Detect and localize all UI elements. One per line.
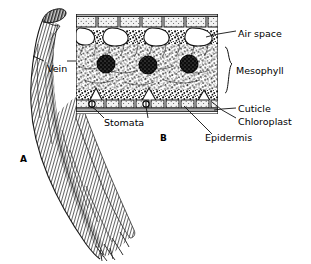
label-vein: Vein xyxy=(47,64,67,74)
leaf-structure-figure xyxy=(0,0,311,264)
mesophyll-brace xyxy=(225,47,232,93)
panel-label-a: A xyxy=(20,155,27,164)
label-mesophyll: Mesophyll xyxy=(236,66,284,76)
air-space xyxy=(103,28,128,46)
panel-b-cross-section xyxy=(75,14,236,135)
chloroplast xyxy=(97,55,115,73)
label-stomata: Stomata xyxy=(104,118,144,128)
air-space xyxy=(144,28,169,46)
label-chloroplast: Chloroplast xyxy=(238,117,292,127)
panel-label-b: B xyxy=(160,134,167,143)
stoma xyxy=(143,101,149,107)
stoma xyxy=(89,101,95,107)
label-air-space: Air space xyxy=(238,29,282,39)
chloroplast xyxy=(139,56,157,74)
chloroplast xyxy=(180,55,198,73)
label-epidermis: Epidermis xyxy=(205,133,252,143)
upper-epidermis xyxy=(76,14,219,29)
leaf-tip-curl xyxy=(43,9,66,23)
chloroplast-group xyxy=(97,55,198,74)
upper-cuticle xyxy=(76,14,218,17)
label-cuticle: Cuticle xyxy=(238,104,271,114)
